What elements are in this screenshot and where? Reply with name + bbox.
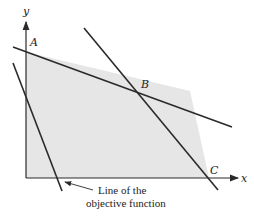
x-axis-label: x	[241, 172, 248, 185]
vertex-label-a: A	[29, 36, 38, 49]
annotation-line-2: objective function	[86, 197, 166, 209]
feasible-region	[26, 52, 209, 178]
y-axis-label: y	[22, 5, 30, 18]
annotation-line-1: Line of the	[98, 184, 146, 196]
vertex-label-c: C	[210, 164, 219, 177]
annotation-arrow	[65, 182, 93, 190]
feasible-region-diagram: y x A B C Line of the objective function	[0, 0, 254, 217]
vertex-label-b: B	[140, 78, 149, 91]
